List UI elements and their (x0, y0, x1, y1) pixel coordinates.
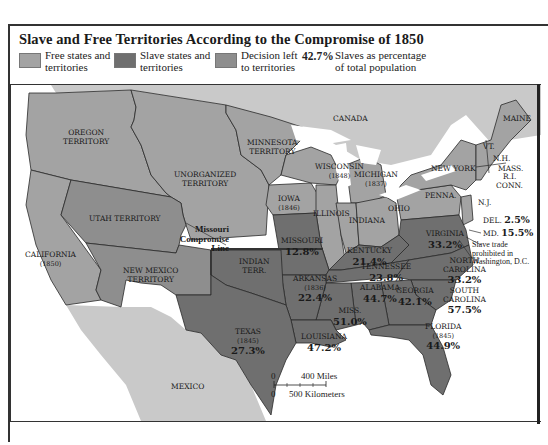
label-miss: MISS.51.0% (333, 307, 367, 327)
label-georgia: GEORGIA42.1% (396, 287, 434, 307)
label-arkansas: ARKANSAS(1836)22.4% (293, 275, 337, 303)
free-swatch (19, 53, 41, 68)
label-louisiana: LOUISIANA47.2% (301, 333, 347, 353)
label-new-york: NEW YORK (431, 165, 475, 174)
label-conn: CONN. (496, 182, 523, 191)
legend-label: Slave states andterritories (140, 50, 210, 73)
label-michigan: MICHIGAN(1837) (354, 171, 398, 188)
label-missouri: MISSOURI12.8% (281, 237, 323, 257)
label-virginia: VIRGINIA33.2% (426, 230, 464, 250)
scale-zero-miles: 0 (271, 371, 276, 381)
missouri-compromise-line-label: MissouriCompromiseLine (177, 225, 229, 254)
label-md: MD. 15.5% (483, 229, 533, 239)
legend-label: Slaves as percentageof total population (335, 50, 426, 73)
label-nj: N.J. (478, 199, 491, 208)
label-south-carolina: SOUTHCAROLINA57.5% (443, 287, 486, 315)
map-title: Slave and Free Territories According to … (19, 31, 424, 48)
label-canada: CANADA (333, 115, 368, 124)
label-new-mexico: NEW MEXICOTERRITORY (123, 267, 178, 284)
label-vt: VT. (483, 143, 495, 152)
label-iowa: IOWA(1846) (278, 195, 300, 212)
legend-pct-sample: 42.7% (302, 50, 334, 62)
scale-km: 500 Kilometers (289, 389, 345, 399)
label-del: DEL. 2.5% (483, 216, 530, 226)
legend-label: Decision leftto territories (241, 50, 298, 73)
label-unorganized: UNORGANIZEDTERRITORY (174, 171, 236, 188)
map: CANADA MEXICO OREGONTERRITORY UNORGANIZE… (10, 84, 541, 422)
label-alabama: ALABAMA44.7% (360, 284, 400, 304)
label-mexico: MEXICO (171, 383, 204, 392)
label-illinois: ILLINOIS (313, 210, 350, 219)
label-utah: UTAH TERRITORY (89, 215, 161, 224)
label-florida: FLORIDA(1845)44.9% (425, 323, 461, 351)
label-oregon: OREGONTERRITORY (63, 129, 109, 146)
label-nh: N.H. (493, 155, 510, 164)
label-minnesota: MINNESOTATERRITORY (247, 139, 298, 156)
label-indian-terr: INDIANTERR. (239, 258, 269, 275)
label-indiana: INDIANA (349, 217, 385, 226)
label-texas: TEXAS(1845)27.3% (231, 328, 265, 356)
label-maine: MAINE (503, 115, 531, 124)
label-ohio: OHIO (388, 205, 410, 214)
page-edge-shadow (537, 84, 540, 424)
label-north-carolina: NORTHCAROLINA33.2% (443, 257, 486, 285)
label-california: CALIFORNIA(1850) (25, 251, 76, 268)
legend-label: Free states andterritories (45, 50, 110, 73)
scale-zero-km: 0 (271, 389, 276, 399)
label-tennessee: TENNESSEE23.8% (361, 263, 411, 283)
decision-swatch (215, 53, 237, 68)
label-penna: PENNA. (425, 192, 456, 201)
scale-miles: 400 Miles (301, 371, 337, 381)
slave-swatch (114, 53, 136, 68)
